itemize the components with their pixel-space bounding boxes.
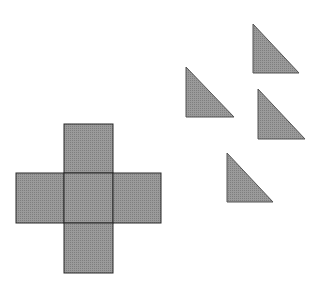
square-top: [64, 124, 113, 173]
triangle-2: [186, 67, 234, 117]
square-bottom: [64, 223, 113, 273]
triangle-3: [258, 89, 305, 139]
diagram-canvas: [0, 0, 314, 294]
square-left: [16, 173, 64, 223]
square-center: [64, 173, 113, 223]
square-right: [113, 173, 161, 223]
triangles-group: [186, 24, 305, 202]
triangle-4: [227, 153, 273, 202]
triangle-1: [253, 24, 299, 73]
cross-net-shape: [16, 124, 161, 273]
